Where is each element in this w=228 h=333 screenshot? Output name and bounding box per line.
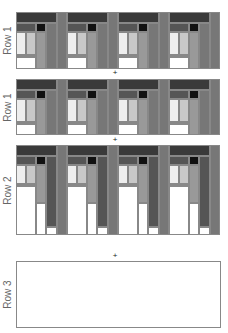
row-label: Row 1 — [0, 79, 14, 135]
right-column — [108, 12, 118, 69]
block — [16, 12, 67, 69]
inner-column — [199, 90, 210, 135]
white-lower — [189, 203, 199, 235]
top-band — [67, 145, 108, 156]
block — [67, 79, 118, 135]
white-cell — [169, 124, 189, 135]
plus-icon: + — [112, 137, 118, 143]
inner-dark-column — [46, 156, 57, 227]
mid-column — [87, 32, 97, 69]
white-bottom — [148, 227, 159, 235]
right-column — [210, 12, 220, 69]
right-column — [210, 145, 220, 235]
light-gray-cell — [179, 165, 189, 184]
inner-column — [97, 90, 108, 135]
light-cell — [16, 99, 26, 122]
light-cell — [16, 32, 26, 55]
block — [67, 12, 118, 69]
row-label-text: Row 1 — [2, 26, 13, 54]
block — [118, 79, 169, 135]
top-band — [67, 79, 108, 90]
white-cell — [118, 124, 138, 135]
right-column — [159, 145, 169, 235]
top-band — [118, 145, 159, 156]
second-band — [16, 156, 36, 165]
top-band — [169, 79, 210, 90]
right-column — [159, 12, 169, 69]
inner-dark-column — [199, 156, 210, 227]
inner-column — [46, 23, 57, 69]
light-gray-cell — [77, 32, 87, 55]
white-cell — [67, 186, 87, 235]
mid-column — [189, 32, 199, 69]
right-column — [159, 79, 169, 135]
second-band — [16, 23, 36, 32]
row-label: Row 3 — [0, 261, 14, 328]
right-column — [210, 79, 220, 135]
dark-square — [87, 90, 97, 99]
mid-column — [138, 99, 148, 135]
top-band — [67, 12, 108, 23]
right-column — [108, 145, 118, 235]
light-gray-cell — [26, 32, 36, 55]
panel — [16, 12, 221, 69]
mid-column — [138, 32, 148, 69]
block — [118, 12, 169, 69]
second-band — [169, 90, 189, 99]
panel — [16, 79, 221, 135]
light-cell — [67, 32, 77, 55]
second-band — [67, 156, 87, 165]
white-bottom — [46, 227, 57, 235]
dark-square — [36, 156, 46, 165]
top-band — [16, 145, 57, 156]
right-column — [108, 79, 118, 135]
dark-square — [138, 23, 148, 32]
second-band — [169, 23, 189, 32]
block — [118, 145, 169, 235]
white-cell — [16, 57, 36, 69]
top-band — [118, 79, 159, 90]
light-gray-cell — [128, 32, 138, 55]
second-band — [16, 90, 36, 99]
light-cell — [16, 165, 26, 184]
white-lower — [138, 203, 148, 235]
inner-column — [148, 23, 159, 69]
dark-square — [189, 156, 199, 165]
dark-square — [36, 90, 46, 99]
dark-square — [87, 156, 97, 165]
dark-square — [36, 23, 46, 32]
mid-column — [36, 165, 46, 203]
inner-column — [199, 23, 210, 69]
row-label-text: Row 3 — [2, 280, 13, 308]
block — [169, 79, 220, 135]
light-gray-cell — [26, 99, 36, 122]
white-lower — [36, 203, 46, 235]
white-bottom — [97, 227, 108, 235]
right-column — [57, 79, 67, 135]
row-label: Row 1 — [0, 12, 14, 69]
white-cell — [118, 57, 138, 69]
light-cell — [169, 32, 179, 55]
white-cell — [67, 124, 87, 135]
second-band — [169, 156, 189, 165]
dark-square — [138, 90, 148, 99]
mid-column — [189, 99, 199, 135]
light-cell — [169, 99, 179, 122]
second-band — [118, 90, 138, 99]
white-cell — [67, 57, 87, 69]
block — [16, 79, 67, 135]
top-band — [16, 79, 57, 90]
white-cell — [16, 186, 36, 235]
white-cell — [169, 57, 189, 69]
block — [169, 12, 220, 69]
light-gray-cell — [179, 32, 189, 55]
right-column — [57, 12, 67, 69]
light-gray-cell — [128, 165, 138, 184]
light-cell — [67, 165, 77, 184]
light-cell — [118, 32, 128, 55]
second-band — [118, 156, 138, 165]
top-band — [169, 12, 210, 23]
mid-column — [87, 99, 97, 135]
second-band — [67, 23, 87, 32]
panel — [16, 145, 221, 235]
